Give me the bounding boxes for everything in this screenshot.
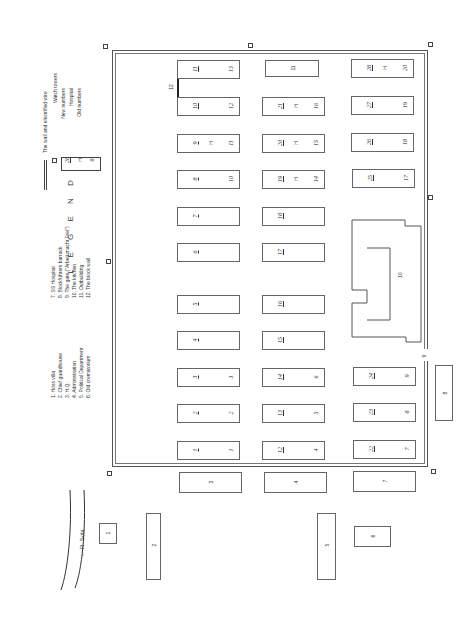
camp-block[interactable]: 11 13: [177, 60, 240, 79]
camp-block[interactable]: 5: [177, 295, 240, 314]
watch-tower-icon: [103, 44, 108, 49]
wall-symbol: [44, 160, 47, 190]
kitchen-label: 10: [397, 269, 403, 281]
gate-label: 9: [421, 351, 427, 361]
building-4-administration[interactable]: 4: [264, 472, 327, 493]
building-7-ss-hospital[interactable]: 7: [353, 471, 416, 492]
camp-block[interactable]: 6: [177, 243, 240, 262]
watch-tower-icon: [106, 259, 111, 264]
legend-sample-old: 8: [89, 154, 95, 166]
legend-item-10: 10. The kitchen: [71, 188, 77, 298]
legend-item-8: 8. Blockführers barrack: [57, 188, 63, 298]
legend-item-7: 7. SS Hospital: [50, 188, 56, 298]
building-6-old-crematorium[interactable]: 6: [354, 526, 391, 547]
outbuilding-11[interactable]: 11: [265, 60, 319, 77]
legend-wall: The wall and electrified wire: [42, 53, 48, 153]
river-label: ← R. Sola: [79, 513, 85, 573]
legend-towers: Watch towers: [52, 73, 58, 173]
camp-block[interactable]: 15: [262, 331, 325, 350]
camp-block[interactable]: 16: [262, 295, 325, 314]
building-1-hoss-villa[interactable]: 1: [99, 523, 117, 544]
legend-item-5: 5. Political Department: [78, 288, 84, 398]
watch-tower-icon: [428, 42, 433, 47]
camp-block[interactable]: 7: [177, 207, 240, 226]
building-3-hq[interactable]: 3: [179, 472, 242, 493]
building-8-blockfuhrer[interactable]: 8: [435, 365, 453, 421]
camp-block[interactable]: 17: [262, 243, 325, 262]
legend-item-3: 3. H.Q.: [64, 288, 70, 398]
camp-block[interactable]: 23 8: [353, 403, 416, 422]
camp-block[interactable]: 1 1: [177, 441, 240, 460]
building-5-political-department[interactable]: 5: [317, 513, 336, 580]
camp-block[interactable]: 13 5: [262, 404, 325, 423]
camp-block[interactable]: 27 19: [351, 96, 414, 115]
camp-block[interactable]: 25 17: [352, 169, 415, 188]
legend-old-numbers: Old numbers: [76, 88, 82, 168]
camp-block[interactable]: 12 4: [262, 441, 325, 460]
legend-new-numbers: New numbers: [60, 88, 66, 168]
legend-item-9: 9. The gate ("Arbeit macht Frei"): [64, 188, 70, 298]
legend-item-4: 4. Administration: [71, 288, 77, 398]
camp-block[interactable]: 18: [262, 207, 325, 226]
camp-block[interactable]: 8 10: [177, 170, 240, 189]
building-2-chief-guardhouse[interactable]: 2: [146, 513, 161, 580]
camp-block[interactable]: 20 H 15: [262, 134, 325, 153]
camp-block[interactable]: 9 H 11: [177, 134, 240, 153]
watch-tower-icon: [248, 43, 253, 48]
block-wall: [177, 79, 179, 98]
legend-item-2: 2. Chief guardhouse: [57, 288, 63, 398]
watch-tower-icon: [431, 469, 436, 474]
camp-block[interactable]: 28 H 20: [351, 59, 414, 78]
camp-block[interactable]: 2 2: [177, 404, 240, 423]
legend-item-1: 1. Höss villa: [50, 288, 56, 398]
camp-block[interactable]: 21 H 16: [262, 97, 325, 116]
camp-block[interactable]: 3 3: [177, 368, 240, 387]
block-wall-label: 12: [168, 82, 174, 92]
camp-block[interactable]: 14 6: [262, 368, 325, 387]
camp-block[interactable]: 19 H 14: [262, 170, 325, 189]
camp-block[interactable]: 10 12: [177, 97, 240, 116]
legend-item-11: 11. Outbuilding: [78, 188, 84, 298]
camp-block[interactable]: 24 9: [353, 367, 416, 386]
camp-block[interactable]: 22 7: [353, 440, 416, 459]
camp-block[interactable]: 4: [177, 331, 240, 350]
legend-hospital: Hospital: [68, 88, 74, 168]
legend-item-6: 6. Old crematorium: [85, 288, 91, 398]
watch-tower-icon: [107, 471, 112, 476]
watch-tower-icon: [428, 195, 433, 200]
camp-block[interactable]: 26 18: [351, 133, 414, 152]
legend-item-12: 12. The block wall: [85, 188, 91, 298]
